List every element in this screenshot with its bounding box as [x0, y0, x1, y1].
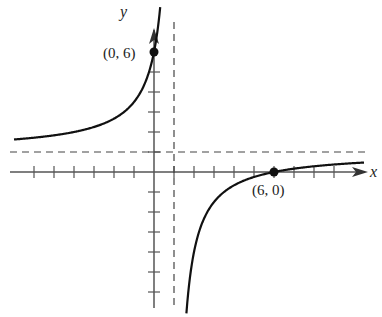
graph: y x (0, 6) (6, 0): [0, 0, 382, 317]
axis-ticks: [34, 72, 334, 292]
x-axis-label: x: [369, 163, 377, 180]
point-y-intercept: [150, 48, 159, 57]
label-x-intercept: (6, 0): [252, 182, 285, 199]
point-x-intercept: [270, 168, 279, 177]
label-y-intercept: (0, 6): [103, 45, 136, 62]
curve-left-branch: [14, 7, 160, 139]
y-axis-label: y: [118, 3, 128, 21]
